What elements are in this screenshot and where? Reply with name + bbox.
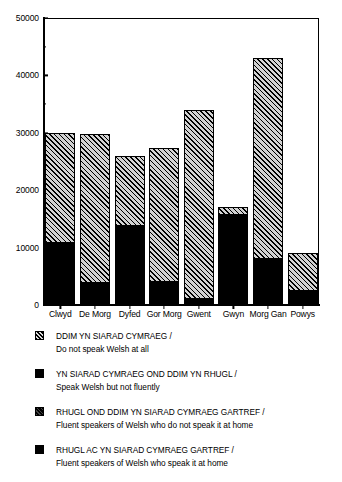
- x-axis-labels: ClwydDe MorgDyfedGor MorgGwentGwynMorg G…: [43, 309, 320, 323]
- bar-powys: [288, 253, 318, 305]
- legend-swatch-solid-icon: [35, 445, 44, 454]
- bar-segment-solid: [185, 298, 213, 304]
- legend-label: DDIM YN SIARAD CYMRAEG /Do not speak Wel…: [56, 330, 172, 355]
- legend-label-english: Fluent speakers of Welsh who speak it at…: [56, 457, 234, 470]
- legend-label: YN SIARAD CYMRAEG OND DDIM YN RHUGL /Spe…: [56, 368, 237, 393]
- bar-segment-hatch: [116, 157, 144, 225]
- bar-segment-solid: [254, 258, 282, 304]
- bar-dyfed: [115, 156, 145, 305]
- x-axis-tick-label-clwyd: Clwyd: [49, 309, 72, 319]
- bar-segment-solid: [289, 290, 317, 304]
- legend-entry-4: RHUGL AC YN SIARAD CYMRAEG GARTREF /Flue…: [0, 444, 234, 469]
- x-axis-tick-label-morg-gan: Morg Gan: [250, 309, 287, 319]
- bar-de-morg: [80, 134, 110, 305]
- legend-swatch-solid-dim-icon: [35, 407, 44, 416]
- bar-segment-solid: [46, 242, 74, 304]
- bar-segment-solid: [81, 282, 109, 304]
- legend-label-welsh: RHUGL AC YN SIARAD CYMRAEG GARTREF /: [56, 444, 234, 457]
- legend-label-english: Fluent speakers of Welsh who do not spea…: [56, 419, 264, 432]
- bar-segment-hatch: [46, 134, 74, 242]
- bar-gwyn: [218, 207, 248, 305]
- chart-legend: DDIM YN SIARAD CYMRAEG /Do not speak Wel…: [0, 326, 342, 478]
- legend-label-welsh: YN SIARAD CYMRAEG OND DDIM YN RHUGL /: [56, 368, 237, 381]
- y-axis-tick-label: 20000: [16, 185, 39, 195]
- legend-entry-2: YN SIARAD CYMRAEG OND DDIM YN RHUGL /Spe…: [0, 368, 237, 393]
- bar-morg-gan: [253, 58, 283, 305]
- legend-swatch-hatch-icon: [35, 331, 44, 340]
- bar-segment-solid: [219, 214, 247, 304]
- bar-segment-solid: [116, 225, 144, 304]
- x-axis-tick-label-gor-morg: Gor Morg: [147, 309, 182, 319]
- x-axis-tick-label-de-morg: De Morg: [79, 309, 111, 319]
- legend-swatch-solid-icon: [35, 369, 44, 378]
- bar-chart: 01000020000300004000050000 ClwydDe MorgD…: [0, 0, 342, 322]
- y-axis-tick-label: 40000: [16, 70, 39, 80]
- x-axis-tick-label-dyfed: Dyfed: [119, 309, 141, 319]
- legend-entry-1: DDIM YN SIARAD CYMRAEG /Do not speak Wel…: [0, 330, 172, 355]
- bar-segment-hatch: [150, 149, 178, 281]
- bar-segment-hatch: [254, 59, 282, 258]
- x-axis-tick-label-gwyn: Gwyn: [223, 309, 244, 319]
- bar-gwent: [184, 110, 214, 305]
- legend-label: RHUGL AC YN SIARAD CYMRAEG GARTREF /Flue…: [56, 444, 234, 469]
- y-axis-tick-label: 0: [34, 300, 39, 310]
- bar-clwyd: [45, 133, 75, 305]
- bar-segment-solid: [150, 281, 178, 304]
- legend-label-english: Speak Welsh but not fluently: [56, 381, 237, 394]
- legend-label-welsh: DDIM YN SIARAD CYMRAEG /: [56, 330, 172, 343]
- legend-label-english: Do not speak Welsh at all: [56, 343, 172, 356]
- bar-segment-hatch: [289, 254, 317, 290]
- legend-label-welsh: RHUGL OND DDIM YN SIARAD CYMRAEG GARTREF…: [56, 406, 264, 419]
- bar-series-group: [43, 18, 320, 305]
- y-axis-labels: 01000020000300004000050000: [0, 0, 39, 322]
- x-axis-tick-label-gwent: Gwent: [187, 309, 211, 319]
- legend-label: RHUGL OND DDIM YN SIARAD CYMRAEG GARTREF…: [56, 406, 264, 431]
- bar-segment-hatch: [81, 135, 109, 282]
- x-axis-tick-label-powys: Powys: [290, 309, 315, 319]
- bar-segment-hatch: [185, 111, 213, 298]
- y-axis-tick-label: 50000: [16, 13, 39, 23]
- bar-gor-morg: [149, 148, 179, 305]
- legend-entry-3: RHUGL OND DDIM YN SIARAD CYMRAEG GARTREF…: [0, 406, 264, 431]
- y-axis-tick-label: 30000: [16, 128, 39, 138]
- y-axis-tick-label: 10000: [16, 243, 39, 253]
